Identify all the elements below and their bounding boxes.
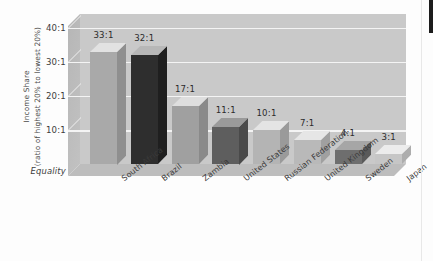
bar-side-face (199, 97, 208, 164)
page-edge-artifact (429, 0, 433, 33)
bar: 32:1 (131, 55, 158, 164)
gridline (68, 28, 406, 30)
x-axis-category-labels: South AfricaBrazilZambiaUnited StatesRus… (68, 176, 418, 260)
y-axis-tick-label: 20:1 (22, 91, 66, 101)
chart-figure: Income Share (ratio of highest 20% to lo… (0, 0, 433, 261)
x-axis-category-label: South Africa (120, 176, 126, 183)
bar-value-label: 32:1 (134, 33, 154, 43)
bar-value-label: 33:1 (93, 30, 113, 40)
bar-value-label: 17:1 (175, 84, 195, 94)
page-edge-line (421, 0, 422, 261)
y-axis-tick-labels: 10:120:130:140:1Equality (18, 0, 66, 261)
bar-value-label: 10:1 (256, 108, 276, 118)
y-axis-baseline-label: Equality (22, 166, 66, 176)
x-axis-category-label: Japan (405, 176, 411, 183)
x-axis-category-label: Russian Federation (283, 176, 289, 183)
bar-front-face (131, 55, 158, 164)
x-axis-category-label: United Kingdom (323, 176, 329, 183)
bar-front-face (90, 52, 117, 165)
y-axis-tick-label: 40:1 (22, 23, 66, 33)
bar-side-face (117, 42, 126, 164)
bar-value-label: 7:1 (300, 118, 314, 128)
bar: 33:1 (90, 52, 117, 165)
x-axis-category-label: Sweden (364, 176, 370, 183)
bar-value-label: 3:1 (382, 132, 396, 142)
bar: 17:1 (172, 106, 199, 164)
bar-value-label: 11:1 (216, 105, 236, 115)
plot-floor (68, 164, 406, 176)
y-axis-tick-label: 30:1 (22, 57, 66, 67)
y-axis-tick-label: 10:1 (22, 125, 66, 135)
x-axis-category-label: Zambia (201, 176, 207, 183)
x-axis-category-label: United States (242, 176, 248, 183)
bar-front-face (172, 106, 199, 164)
x-axis-category-label: Brazil (160, 176, 166, 183)
